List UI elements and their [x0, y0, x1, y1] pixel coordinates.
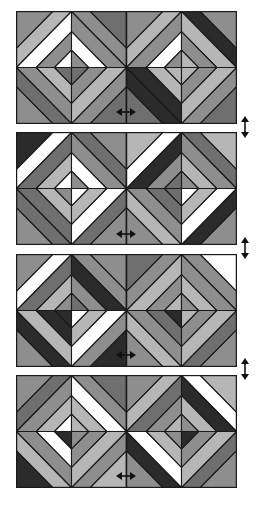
quilt-block-2 — [127, 133, 237, 245]
quilt-block-2 — [127, 255, 237, 367]
swap-panels-1-2-vertical-arrow-icon[interactable] — [239, 116, 251, 138]
flip-panel-4-horizontal-arrow-icon[interactable] — [116, 466, 136, 476]
swap-panels-3-4-vertical-arrow-icon[interactable] — [239, 358, 251, 380]
quilt-block-2 — [127, 12, 237, 124]
quilt-block-1 — [17, 12, 127, 124]
swap-panels-2-3-vertical-arrow-icon[interactable] — [239, 237, 251, 259]
quilt-block-1 — [17, 255, 127, 367]
quilt-block-1 — [17, 376, 127, 488]
quilt-block-2 — [127, 376, 237, 488]
flip-panel-2-horizontal-arrow-icon[interactable] — [116, 224, 136, 234]
quilt-block-1 — [17, 133, 127, 245]
flip-panel-1-horizontal-arrow-icon[interactable] — [116, 102, 136, 112]
flip-panel-3-horizontal-arrow-icon[interactable] — [116, 345, 136, 355]
